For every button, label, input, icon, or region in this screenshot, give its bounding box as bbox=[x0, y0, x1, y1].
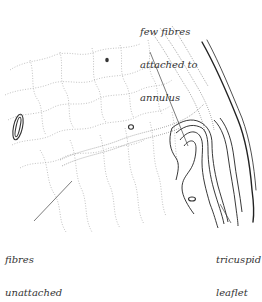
leader-lines bbox=[34, 52, 231, 223]
label-line: attached to bbox=[140, 59, 198, 70]
label-line: leaflet bbox=[216, 287, 261, 298]
leader-line-unattached bbox=[34, 181, 72, 221]
label-fibres-unattached: fibres unattached bbox=[5, 232, 62, 302]
vessel-oval-small bbox=[129, 125, 134, 129]
label-line: tricuspid bbox=[216, 254, 261, 265]
vessel-oval-small-2 bbox=[189, 197, 196, 201]
tricuspid-leaflet-drawing bbox=[170, 118, 242, 228]
label-few-fibres-attached: few fibres attached to annulus bbox=[140, 4, 198, 125]
label-line: few fibres bbox=[140, 26, 198, 37]
label-line: fibres bbox=[5, 254, 62, 265]
label-line: unattached bbox=[5, 287, 62, 298]
label-line: annulus bbox=[140, 92, 198, 103]
label-tricuspid-leaflet: tricuspid leaflet bbox=[216, 232, 261, 302]
wall-outline bbox=[202, 40, 256, 222]
